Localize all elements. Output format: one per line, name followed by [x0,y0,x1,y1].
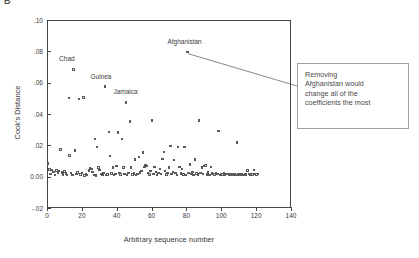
annotation-callout: Removing Afghanistan would change all of… [297,63,409,129]
point-label: Chad [59,55,75,62]
scatter-point [98,169,101,172]
scatter-point [160,173,163,176]
scatter-point [47,162,50,165]
scatter-point [202,173,205,176]
y-tick [47,145,51,146]
x-tick-label: 0 [35,212,59,219]
scatter-point [122,166,125,169]
x-tick [82,207,83,211]
scatter-point [71,174,74,177]
scatter-point [130,166,133,169]
scatter-point [140,170,143,173]
figure-panel: B .10.08.06.04.020.00-.02 02040608010012… [0,0,419,258]
scatter-point [121,138,124,141]
scatter-point [181,168,184,171]
scatter-point [177,146,180,149]
scatter-point [125,101,128,104]
scatter-point [189,163,192,166]
scatter-point [236,141,239,144]
scatter-point [151,119,154,122]
scatter-point [94,138,97,141]
scatter-point [119,173,122,176]
scatter-point [176,174,179,177]
point-label: Guinea [91,73,112,80]
scatter-point [104,85,107,88]
x-tick-label: 140 [279,212,303,219]
point-label: Afghanistan [167,38,201,45]
scatter-point [106,173,109,176]
scatter-point [129,120,132,123]
scatter-point [148,173,151,176]
x-tick [186,207,187,211]
scatter-point [138,156,141,159]
scatter-point [59,148,62,151]
scatter-point [169,145,172,148]
annotation-text: Removing Afghanistan would change all of… [305,70,403,108]
y-tick [47,20,51,21]
scatter-point [95,174,98,177]
scatter-point [134,158,137,161]
scatter-point [210,166,213,169]
x-tick-label: 100 [209,212,233,219]
x-tick [117,207,118,211]
plot-frame [47,20,291,208]
point-label: Jamaica [113,88,137,95]
scatter-point [112,166,115,169]
scatter-point [163,151,166,154]
x-tick [47,207,48,211]
scatter-point [68,97,71,100]
x-tick-label: 20 [70,212,94,219]
x-tick [152,207,153,211]
x-tick [256,207,257,211]
scatter-point [217,130,220,133]
scatter-point [117,131,120,134]
scatter-point [78,98,81,101]
y-tick-label: -.02 [17,205,43,212]
scatter-point [161,158,164,161]
scatter-point [153,166,156,169]
scatter-point [82,96,85,99]
scatter-point [72,68,75,71]
x-tick [221,207,222,211]
x-tick-label: 80 [174,212,198,219]
scatter-point [166,172,169,175]
scatter-point [142,151,145,154]
scatter-point [109,155,112,158]
scatter-point [198,119,201,122]
scatter-point [186,51,189,54]
scatter-point [115,165,118,168]
y-tick [47,177,51,178]
scatter-point [253,169,256,172]
x-tick-label: 120 [244,212,268,219]
scatter-point [86,174,89,177]
x-axis-title: Arbitrary sequence number [47,235,291,244]
scatter-point [204,164,207,167]
y-tick-label: .10 [17,17,43,24]
y-tick [47,83,51,84]
y-axis-title: Cook's Distance [13,48,22,178]
scatter-point [96,146,99,149]
scatter-point [168,166,171,169]
panel-label: B [4,0,11,6]
scatter-point [145,165,148,168]
scatter-point [68,154,71,157]
y-tick [47,51,51,52]
y-tick [47,114,51,115]
scatter-point [183,146,186,149]
scatter-point [114,173,117,176]
scatter-point [194,158,197,161]
x-tick-label: 60 [140,212,164,219]
scatter-point [173,159,176,162]
scatter-point [159,168,162,171]
x-tick [291,207,292,211]
scatter-point [74,149,77,152]
scatter-point [127,172,130,175]
scatter-point [66,174,69,177]
x-tick-label: 40 [105,212,129,219]
scatter-point [246,169,249,172]
scatter-point [257,173,260,176]
scatter-point [108,131,111,134]
